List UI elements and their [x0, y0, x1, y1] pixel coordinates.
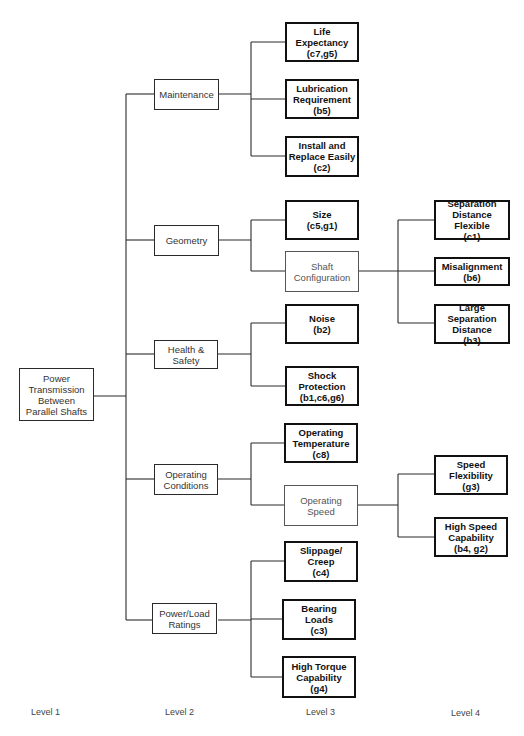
node-operating-conditions: Operating Conditions [154, 464, 218, 495]
node-label: Large Separation Distance (b3) [436, 302, 508, 346]
node-label: High Torque Capability (g4) [291, 661, 346, 694]
node-label: Size (c5,g1) [307, 209, 338, 231]
node-maintenance: Maintenance [154, 79, 219, 110]
node-lubrication-requirement: Lubrication Requirement (b5) [285, 79, 359, 119]
node-size: Size (c5,g1) [285, 200, 359, 240]
node-label: Speed Flexibility (g3) [449, 459, 493, 492]
node-label: Life Expectancy (c7,g5) [296, 26, 349, 59]
node-operating-temperature: Operating Temperature (c8) [284, 423, 358, 463]
node-bearing-loads: Bearing Loads (c3) [282, 599, 356, 640]
root-node-power-transmission: Power Transmission Between Parallel Shaf… [19, 368, 94, 421]
node-install-replace: Install and Replace Easily (c2) [285, 136, 359, 177]
node-life-expectancy: Life Expectancy (c7,g5) [285, 22, 359, 62]
node-misalignment: Misalignment (b6) [434, 257, 510, 286]
node-label: Power/Load Ratings [159, 608, 210, 630]
root-node-label: Power Transmission Between Parallel Shaf… [26, 373, 87, 417]
node-high-torque-capability: High Torque Capability (g4) [282, 656, 356, 698]
level-3-label: Level 3 [306, 707, 335, 717]
node-slippage-creep: Slippage/ Creep (c4) [284, 541, 358, 582]
node-shock-protection: Shock Protection (b1,c6,g6) [285, 366, 359, 406]
node-power-load-ratings: Power/Load Ratings [152, 603, 217, 634]
node-label: Noise (b2) [309, 313, 335, 335]
node-label: Shaft Configuration [294, 261, 351, 283]
node-shaft-configuration: Shaft Configuration [285, 251, 359, 292]
node-label: Bearing Loads (c3) [301, 603, 336, 636]
node-separation-distance-flexible: Separation Distance Flexible (c1) [434, 200, 510, 240]
node-label: Operating Speed [300, 495, 342, 517]
node-health-safety: Health & Safety [154, 340, 218, 369]
node-label: Lubrication Requirement (b5) [293, 83, 351, 116]
node-label: Misalignment (b6) [442, 261, 503, 283]
node-label: Separation Distance Flexible (c1) [436, 198, 508, 242]
level-4-label: Level 4 [451, 708, 480, 718]
node-speed-flexibility: Speed Flexibility (g3) [434, 455, 508, 495]
node-large-separation-distance: Large Separation Distance (b3) [434, 304, 510, 344]
level-1-label: Level 1 [31, 707, 60, 717]
node-geometry: Geometry [154, 225, 219, 256]
node-label: Geometry [166, 235, 208, 246]
node-label: Slippage/ Creep (c4) [300, 545, 342, 578]
level-2-label: Level 2 [165, 707, 194, 717]
node-label: Operating Temperature (c8) [293, 427, 350, 460]
node-high-speed-capability: High Speed Capability (b4, g2) [434, 517, 508, 557]
node-label: Operating Conditions [164, 469, 209, 491]
node-label: Install and Replace Easily (c2) [289, 140, 356, 173]
node-label: High Speed Capability (b4, g2) [445, 521, 497, 554]
node-label: Health & Safety [168, 344, 204, 366]
node-noise: Noise (b2) [285, 304, 359, 344]
node-label: Maintenance [159, 89, 213, 100]
node-label: Shock Protection (b1,c6,g6) [299, 370, 346, 403]
node-operating-speed: Operating Speed [284, 485, 358, 526]
